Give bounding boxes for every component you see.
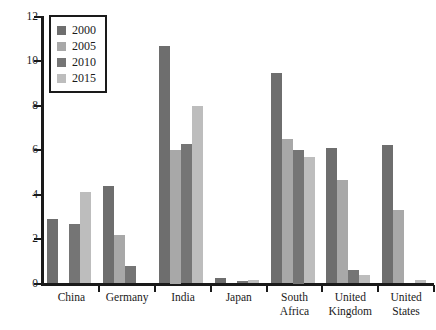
bar-south-africa-2005 <box>282 139 293 283</box>
legend-swatch-icon <box>57 26 66 35</box>
bar-japan-2010 <box>237 281 248 283</box>
x-category-label-line: States <box>378 305 434 319</box>
bar-united-kingdom-2015 <box>359 275 370 284</box>
bar-south-africa-2000 <box>271 73 282 284</box>
bar-india-2010 <box>181 144 192 284</box>
bar-india-2015 <box>192 106 203 284</box>
bar-germany-2005 <box>114 235 125 284</box>
bar-south-africa-2010 <box>293 150 304 283</box>
y-tick-label-12: 12 <box>12 11 38 23</box>
legend-swatch-icon <box>57 74 66 83</box>
x-category-label-united-states: UnitedStates <box>378 291 434 318</box>
x-category-label-india: India <box>155 291 211 305</box>
x-category-label-line: United <box>378 291 434 305</box>
x-category-label-line: Japan <box>211 291 267 305</box>
y-tick-label-6: 6 <box>12 144 38 156</box>
x-category-label-line: Kingdom <box>322 305 378 319</box>
y-tick-label-2: 2 <box>12 233 38 245</box>
x-category-label-japan: Japan <box>211 291 267 305</box>
x-category-label-germany: Germany <box>99 291 155 305</box>
bar-chart: 024681012 ChinaGermanyIndiaJapanSouthAfr… <box>0 0 436 330</box>
legend-item-2010: 2010 <box>57 54 96 70</box>
legend-label: 2010 <box>72 56 96 68</box>
legend-label: 2000 <box>72 24 96 36</box>
chart-legend: 2000200520102015 <box>49 15 107 93</box>
y-tick-label-10: 10 <box>12 55 38 67</box>
y-tick-label-8: 8 <box>12 100 38 112</box>
x-category-label-line: United <box>322 291 378 305</box>
legend-item-2000: 2000 <box>57 22 96 38</box>
bar-china-2010 <box>69 224 80 284</box>
bar-china-2000 <box>47 219 58 283</box>
bar-united-states-2015 <box>415 280 426 283</box>
bar-united-kingdom-2005 <box>337 180 348 283</box>
x-category-label-line: India <box>155 291 211 305</box>
legend-item-2005: 2005 <box>57 38 96 54</box>
legend-label: 2015 <box>72 72 96 84</box>
bar-japan-2000 <box>215 278 226 284</box>
bar-south-africa-2015 <box>304 157 315 284</box>
y-tick-label-4: 4 <box>12 189 38 201</box>
legend-swatch-icon <box>57 42 66 51</box>
bar-china-2015 <box>80 192 91 283</box>
legend-item-2015: 2015 <box>57 70 96 86</box>
x-category-label-line: South <box>267 291 323 305</box>
x-category-label-south-africa: SouthAfrica <box>267 291 323 318</box>
bar-germany-2000 <box>103 186 114 284</box>
x-category-label-china: China <box>44 291 100 305</box>
bar-united-kingdom-2000 <box>326 148 337 283</box>
bar-germany-2010 <box>125 266 136 284</box>
y-tick-label-0: 0 <box>12 278 38 290</box>
bar-united-states-2005 <box>393 210 404 283</box>
bar-india-2005 <box>170 150 181 283</box>
bar-japan-2015 <box>248 280 259 283</box>
x-category-label-united-kingdom: UnitedKingdom <box>322 291 378 318</box>
bar-india-2000 <box>159 46 170 284</box>
legend-label: 2005 <box>72 40 96 52</box>
y-axis-line <box>41 16 44 284</box>
legend-swatch-icon <box>57 58 66 67</box>
x-category-label-line: China <box>44 291 100 305</box>
x-category-label-line: Africa <box>267 305 323 319</box>
bar-united-kingdom-2010 <box>348 270 359 283</box>
bar-united-states-2000 <box>382 145 393 284</box>
x-category-label-line: Germany <box>99 291 155 305</box>
